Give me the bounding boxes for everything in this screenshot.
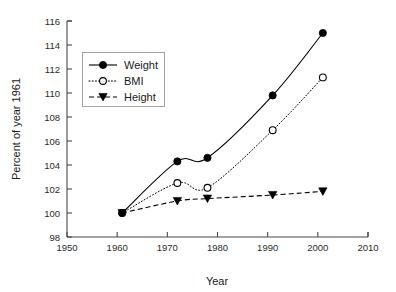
legend-label-weight: Weight — [124, 59, 158, 71]
legend-marker-weight — [99, 61, 106, 68]
y-tick-label: 102 — [44, 184, 60, 195]
y-tick-label: 106 — [44, 136, 60, 147]
y-tick-label: 104 — [44, 160, 60, 171]
data-point-bmi — [174, 180, 181, 187]
data-point-weight — [269, 92, 276, 99]
x-tick-label: 2000 — [307, 242, 328, 253]
x-tick-label: 2010 — [357, 242, 378, 253]
chart-figure: 98100102104106108110112114116 1950196019… — [0, 0, 396, 292]
chart-legend: WeightBMIHeight — [83, 53, 165, 107]
line-chart-canvas: 98100102104106108110112114116 1950196019… — [0, 0, 396, 292]
y-tick-label: 116 — [45, 16, 60, 27]
x-tick-label: 1950 — [56, 242, 77, 253]
y-tick-label: 112 — [45, 64, 60, 75]
y-tick-label: 98 — [49, 232, 60, 243]
data-point-weight — [174, 158, 181, 165]
x-tick-label: 1960 — [107, 242, 128, 253]
data-point-weight — [204, 154, 211, 161]
legend-label-bmi: BMI — [124, 75, 144, 87]
data-point-bmi — [319, 74, 326, 81]
y-tick-label: 114 — [45, 40, 60, 51]
data-point-weight — [119, 209, 126, 216]
data-point-bmi — [204, 184, 211, 191]
data-point-bmi — [269, 127, 276, 134]
y-tick-label: 108 — [44, 112, 60, 123]
legend-marker-bmi — [100, 78, 107, 85]
x-tick-label: 1980 — [207, 242, 228, 253]
x-axis-title: Year — [206, 275, 229, 287]
x-tick-label: 1990 — [257, 242, 278, 253]
x-tick-label: 1970 — [157, 242, 178, 253]
y-tick-label: 110 — [45, 88, 60, 99]
legend-label-height: Height — [124, 91, 156, 103]
data-point-weight — [319, 29, 326, 36]
y-tick-label: 100 — [44, 208, 60, 219]
y-axis-title: Percent of year 1961 — [10, 78, 22, 180]
